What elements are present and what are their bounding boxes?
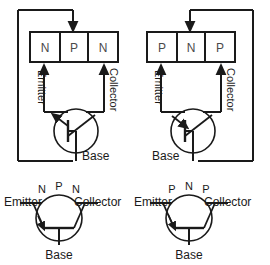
pnp-symbol-letter-1: N [185, 180, 193, 192]
pnp-region-2-letter: P [216, 41, 224, 55]
npn-region-0-letter: N [41, 41, 50, 55]
pnp-emitter-label: Emitter [153, 70, 165, 105]
pnp-symbol-base-label: Base [175, 248, 203, 262]
pnp-symbol-emitter-label: Emitter [134, 195, 172, 209]
pnp-collector-label: Collector [225, 68, 237, 112]
pnp-symbol-letter-2: P [202, 183, 209, 195]
npn-emitter-label: Emitter [36, 70, 48, 105]
npn-symbol-collector-label: Collector [74, 195, 121, 209]
pnp-symbol-collector-label: Collector [204, 195, 251, 209]
npn-region-1-letter: P [70, 41, 78, 55]
npn-base-label: Base [82, 149, 110, 163]
npn-symbol-letter-1: P [55, 180, 62, 192]
npn-region-2-letter: N [99, 41, 108, 55]
npn-symbol-emitter-label: Emitter [4, 195, 42, 209]
pnp-region-0-letter: P [158, 41, 166, 55]
pnp-region-1-letter: N [187, 41, 196, 55]
npn-symbol-letter-0: N [38, 183, 46, 195]
npn-collector-label: Collector [108, 68, 120, 112]
npn-symbol-letter-2: N [72, 183, 80, 195]
pnp-base-label: Base [152, 149, 180, 163]
pnp-semiconductor-bar: P N P [147, 32, 235, 62]
npn-semiconductor-bar: N P N [30, 32, 118, 62]
transistor-diagram: N P N Emitter Collector Base [0, 0, 270, 265]
npn-symbol-base-label: Base [45, 248, 73, 262]
diagram-canvas: N P N Emitter Collector Base [0, 0, 270, 265]
pnp-symbol-letter-0: P [168, 183, 175, 195]
